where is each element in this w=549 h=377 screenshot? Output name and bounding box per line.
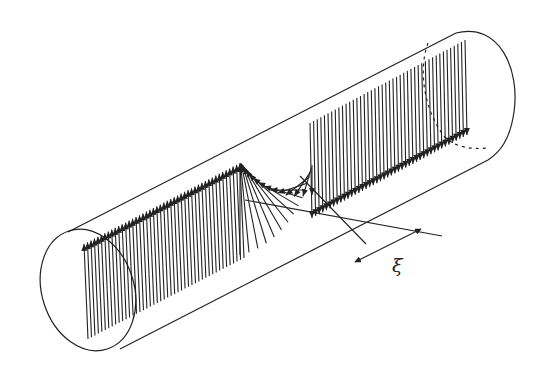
cylinder-outline bbox=[25, 31, 515, 363]
cylinder-bottom-edge bbox=[120, 160, 488, 349]
vector-field bbox=[81, 40, 470, 339]
cylinder-diagram: ξ bbox=[0, 0, 549, 377]
xi-label: ξ bbox=[392, 254, 404, 276]
xi-double-arrow-icon bbox=[355, 229, 421, 262]
